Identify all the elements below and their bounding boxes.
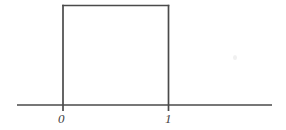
uniform-distribution-diagram xyxy=(0,0,286,130)
tick-label-one: 1 xyxy=(165,112,172,125)
scan-artifact-speck xyxy=(233,55,237,60)
tick-label-zero: 0 xyxy=(58,112,65,125)
figure-canvas: 0 1 xyxy=(0,0,286,130)
